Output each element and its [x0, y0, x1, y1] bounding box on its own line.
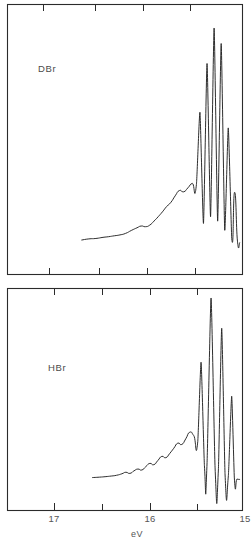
x-axis-title: eV	[131, 529, 143, 539]
hbr-spectrum-trace	[93, 298, 240, 504]
panel-dbr-top-ticks	[44, 5, 191, 11]
panel-hbr: HBr	[8, 289, 243, 511]
panel-hbr-frame	[8, 289, 243, 511]
spectra-figure: DBr HBr 17 16	[0, 0, 251, 540]
panel-hbr-label: HBr	[48, 362, 66, 373]
figure-container: DBr HBr 17 16	[0, 0, 251, 540]
panel-dbr-bottom-ticks	[50, 268, 196, 274]
panel-dbr-label: DBr	[38, 63, 56, 74]
x-tick-label-16: 16	[144, 513, 155, 524]
x-axis: 17 16 15 eV	[48, 513, 250, 539]
x-tick-label-17: 17	[48, 513, 59, 524]
panel-hbr-bottom-ticks	[55, 503, 198, 510]
dbr-spectrum-trace	[82, 28, 240, 248]
panel-hbr-top-ticks	[55, 289, 198, 295]
x-tick-label-15: 15	[239, 513, 250, 524]
panel-dbr: DBr	[8, 5, 243, 275]
